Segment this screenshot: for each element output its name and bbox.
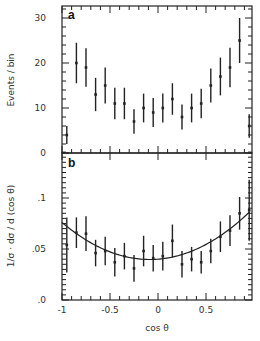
panel-a-ylabel: Events / bin <box>6 53 16 106</box>
panel-a-data-point <box>238 39 241 42</box>
panel-b-data-point <box>238 212 241 215</box>
panel-a: a Events / bin 0102030 <box>6 6 252 158</box>
panel-a-data-point <box>142 107 145 110</box>
panel-a-data-point <box>200 102 203 105</box>
panel-b-data-point <box>210 250 213 253</box>
panel-a-ytick-label: 10 <box>35 103 47 113</box>
panel-b-data-point <box>219 235 222 238</box>
panel-a-data-point <box>229 66 232 69</box>
x-tick-label: -0.5 <box>101 305 119 315</box>
panel-a-data-point <box>181 116 184 119</box>
panel-b-data-point <box>162 255 165 258</box>
panel-b-data-point <box>190 258 193 261</box>
x-axis-label: cos θ <box>145 323 169 333</box>
chart: a Events / bin 0102030 b 1/σ · dσ / d (c… <box>0 0 260 341</box>
panel-a-data-point <box>66 134 69 137</box>
panel-a-data-point <box>210 84 213 87</box>
panel-a-ytick-label: 20 <box>35 58 47 68</box>
panel-a-data-point <box>85 66 88 69</box>
panel-a-data-point <box>114 102 117 105</box>
panel-b-data-point <box>114 261 117 264</box>
panel-b-data-point <box>248 209 251 212</box>
panel-a-data-point <box>171 98 174 101</box>
panel-b-ytick-label: .0 <box>37 295 46 305</box>
x-tick-label: -1 <box>58 305 67 315</box>
panel-a-data-point <box>152 111 155 114</box>
panel-b-ticks: -1-0.500.5.0.05.1 <box>32 152 252 315</box>
panel-a-ytick-label: 30 <box>35 13 47 23</box>
panel-a-points <box>66 18 251 144</box>
panel-b-data-point <box>123 255 126 258</box>
panel-b-data-point <box>181 263 184 266</box>
panel-a-data-point <box>190 107 193 110</box>
panel-a-ytick-label: 0 <box>40 148 46 158</box>
panel-b-ylabel: 1/σ · dσ / d (cos θ) <box>6 185 16 267</box>
panel-b: b 1/σ · dσ / d (cos θ) cos θ -1-0.500.5.… <box>6 152 252 333</box>
panel-a-data-point <box>162 107 165 110</box>
panel-b-ytick-label: .1 <box>37 193 46 203</box>
panel-a-data-point <box>75 62 78 65</box>
panel-b-data-point <box>133 267 136 270</box>
panel-b-label: b <box>68 156 75 170</box>
panel-a-data-point <box>123 102 126 105</box>
panel-a-label: a <box>68 8 75 22</box>
panel-b-points <box>66 180 251 282</box>
panel-b-data-point <box>94 252 97 255</box>
panel-a-data-point <box>133 120 136 123</box>
panel-b-data-point <box>200 261 203 264</box>
panel-b-data-point <box>85 232 88 235</box>
panel-a-frame <box>62 6 252 153</box>
panel-b-data-point <box>104 250 107 253</box>
panel-a-data-point <box>248 125 251 128</box>
panel-b-data-point <box>75 231 78 234</box>
panel-b-frame <box>62 153 252 300</box>
panel-b-data-point <box>142 250 145 253</box>
panel-a-data-point <box>104 84 107 87</box>
x-tick-label: 0 <box>155 305 161 315</box>
panel-b-data-point <box>152 257 155 260</box>
panel-a-data-point <box>94 93 97 96</box>
panel-b-data-point <box>171 240 174 243</box>
panel-a-data-point <box>219 75 222 78</box>
x-tick-label: 0.5 <box>199 305 213 315</box>
panel-b-data-point <box>66 244 69 247</box>
panel-b-data-point <box>229 229 232 232</box>
panel-b-ytick-label: .05 <box>32 244 46 254</box>
